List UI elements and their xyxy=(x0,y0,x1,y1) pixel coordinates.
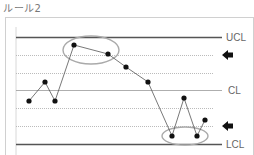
data-point xyxy=(105,51,110,56)
lcl-label: LCL xyxy=(226,139,245,150)
data-point xyxy=(26,98,31,103)
cl-label: CL xyxy=(228,85,241,96)
control-lines xyxy=(16,38,222,145)
data-point xyxy=(52,98,57,103)
data-point xyxy=(42,79,47,84)
data-point xyxy=(145,79,150,84)
data-point xyxy=(194,133,199,138)
data-point xyxy=(123,64,128,69)
data-point xyxy=(181,95,186,100)
arrow-left-icon xyxy=(222,121,233,131)
data-point xyxy=(169,133,174,138)
ucl-label: UCL xyxy=(226,32,246,43)
data-point xyxy=(71,42,76,47)
data-point xyxy=(202,117,207,122)
upper-highlight-ellipse xyxy=(63,36,119,64)
arrow-left-icon xyxy=(222,50,233,60)
control-chart: UCL CL LCL xyxy=(0,0,254,155)
